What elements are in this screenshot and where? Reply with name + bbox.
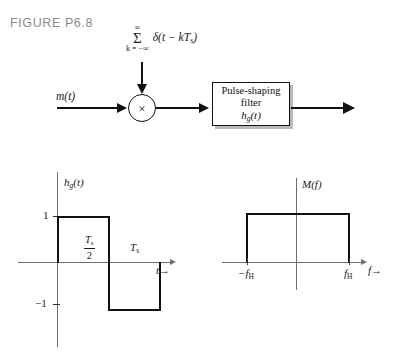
- impulse-feed-line: [141, 62, 143, 86]
- message-spectrum-x-axis: [222, 262, 364, 263]
- impulse-feed-arrowhead-icon: [137, 84, 147, 94]
- impulse-response-full-sub: s: [136, 246, 139, 255]
- impulse-response-half-denominator: 2: [87, 250, 92, 261]
- impulse-response-x-tick-label-half: Ts 2: [84, 234, 95, 261]
- filter-block-line1: Pulse-shaping: [222, 85, 281, 97]
- impulse-response-positive-level: [57, 216, 110, 218]
- filter-block-line2: filter: [241, 97, 261, 109]
- impulse-response-return-edge: [159, 262, 161, 311]
- impulse-response-rise-edge: [57, 216, 59, 263]
- message-spectrum-neg-symbol: −f: [238, 267, 248, 279]
- impulse-response-y-arg: (t): [73, 176, 83, 188]
- impulse-response-falling-edge: [108, 216, 110, 311]
- impulse-response-x-tick-label-full: Ts: [130, 241, 139, 255]
- multiplier-node: ×: [128, 94, 156, 122]
- message-spectrum-x-axis-arrowhead-icon: [361, 259, 367, 265]
- figure-title: FIGURE P6.8: [10, 16, 93, 30]
- message-spectrum-y-fn: M: [302, 178, 311, 190]
- message-spectrum-x-tick-label-positive: fH: [344, 267, 352, 281]
- filter-input-arrowhead-icon: [199, 103, 209, 113]
- impulse-response-y-tick-label-positive: 1: [43, 209, 49, 221]
- multiply-icon: ×: [129, 95, 155, 121]
- filter-block-transfer-function: hg(t): [241, 109, 261, 123]
- pulse-shaping-filter-block: Pulse-shaping filter hg(t): [212, 82, 290, 126]
- input-signal-label: m(t): [56, 90, 75, 102]
- impulse-response-y-axis-label: hg(t): [64, 176, 84, 190]
- summation-operator: ∞ Σ k = −∞: [126, 24, 149, 53]
- message-spectrum-pos-sub: H: [347, 272, 352, 281]
- sigma-icon: Σ: [133, 31, 142, 45]
- input-line: [57, 107, 119, 109]
- multiplier-to-filter-line: [156, 107, 200, 109]
- summation-lower-limit: k = −∞: [126, 45, 149, 53]
- filter-fn-argument: (t): [250, 109, 260, 121]
- message-spectrum-x-tick-negative: [247, 258, 248, 265]
- message-spectrum-y-arg: (f): [311, 178, 321, 190]
- impulse-response-x-axis-arrowhead-icon: [170, 259, 176, 265]
- impulse-response-half-numerator: Ts: [84, 234, 95, 247]
- input-arrowhead-icon: [117, 103, 127, 113]
- message-spectrum-neg-sub: H: [248, 272, 253, 281]
- message-spectrum-top-level: [246, 213, 350, 215]
- delta-function-expression: δ(t − kTs): [153, 31, 197, 47]
- message-spectrum-right-edge: [348, 213, 350, 263]
- impulse-train-expression: ∞ Σ k = −∞ δ(t − kTs): [126, 24, 197, 53]
- message-spectrum-y-axis-label: M(f): [302, 178, 322, 190]
- message-spectrum-y-axis: [296, 178, 297, 290]
- impulse-response-half-num-sub: s: [91, 239, 94, 247]
- impulse-response-x-axis: [18, 262, 173, 263]
- delta-expr-main: δ(t − kT: [153, 31, 190, 43]
- output-arrowhead-icon: [343, 102, 355, 114]
- message-spectrum-x-tick-positive: [349, 258, 350, 265]
- impulse-response-y-tick-label-negative: −1: [35, 297, 47, 309]
- figure-root: FIGURE P6.8 ∞ Σ k = −∞ δ(t − kTs) m(t) ×…: [0, 0, 394, 362]
- impulse-response-negative-level: [108, 309, 161, 311]
- message-spectrum-left-edge: [246, 213, 248, 263]
- delta-expr-close: ): [193, 31, 197, 43]
- message-spectrum-x-tick-label-negative: −fH: [238, 267, 254, 281]
- output-line: [291, 107, 345, 109]
- message-spectrum-x-axis-label: f→: [368, 264, 382, 276]
- impulse-response-y-tick-negative: [53, 304, 60, 305]
